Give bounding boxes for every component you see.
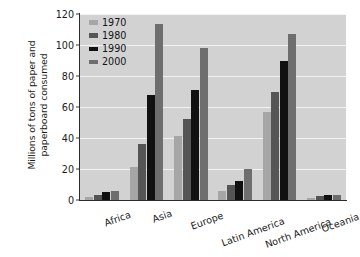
bar-2000-north-america xyxy=(288,34,296,200)
x-axis-labels: AfricaAsiaEuropeLatin AmericaNorth Ameri… xyxy=(80,201,346,257)
bar-1980-asia xyxy=(138,144,146,200)
y-axis-tick-label: 20 xyxy=(62,164,74,175)
legend-label-1990: 1990 xyxy=(102,44,126,54)
legend: 1970198019902000 xyxy=(89,17,126,68)
x-axis-label-africa: Africa xyxy=(103,209,132,229)
x-axis-label-oceania: Oceania xyxy=(320,211,360,235)
legend-swatch-1990 xyxy=(89,47,98,52)
bar-1980-latin-america xyxy=(227,185,235,201)
bar-1970-africa xyxy=(85,197,93,200)
bar-1980-africa xyxy=(94,195,102,200)
x-axis-label-asia: Asia xyxy=(150,207,173,224)
bar-1990-europe xyxy=(191,90,199,200)
bar-1990-latin-america xyxy=(235,181,243,200)
y-axis: 020406080100120 xyxy=(50,14,80,200)
legend-item-1990: 1990 xyxy=(89,43,126,54)
bar-2000-oceania xyxy=(333,195,341,200)
y-axis-tick-label: 80 xyxy=(62,71,74,82)
y-axis-tick-label: 100 xyxy=(56,40,74,51)
y-axis-tick-label: 60 xyxy=(62,102,74,113)
bar-2000-latin-america xyxy=(244,169,252,200)
bar-1990-asia xyxy=(147,95,155,200)
bar-group xyxy=(263,14,297,200)
bar-1970-europe xyxy=(174,136,182,200)
legend-swatch-1970 xyxy=(89,20,98,25)
legend-label-1970: 1970 xyxy=(102,18,126,28)
bar-group xyxy=(130,14,164,200)
bar-1990-oceania xyxy=(324,195,332,200)
y-axis-tick-label: 120 xyxy=(56,9,74,20)
bar-1990-north-america xyxy=(280,61,288,201)
bar-1980-europe xyxy=(183,119,191,200)
bar-group xyxy=(218,14,252,200)
legend-item-2000: 2000 xyxy=(89,57,126,68)
bar-group xyxy=(307,14,341,200)
legend-swatch-1980 xyxy=(89,33,98,38)
x-axis-label-europe: Europe xyxy=(189,210,224,232)
legend-item-1970: 1970 xyxy=(89,17,126,28)
legend-label-2000: 2000 xyxy=(102,57,126,67)
bar-1970-asia xyxy=(130,167,138,200)
bar-1970-latin-america xyxy=(218,191,226,200)
bar-2000-europe xyxy=(200,48,208,200)
y-axis-title-line2: paperboard consumed xyxy=(38,53,50,156)
bar-1970-oceania xyxy=(307,198,315,200)
y-axis-tick-label: 0 xyxy=(68,195,74,206)
y-axis-title-line1: Millions of tons of paper and xyxy=(26,40,38,169)
bar-1990-africa xyxy=(102,192,110,200)
y-axis-tick-label: 40 xyxy=(62,133,74,144)
bar-1980-oceania xyxy=(316,196,324,200)
bar-1970-north-america xyxy=(263,112,271,200)
bar-2000-asia xyxy=(155,24,163,200)
bar-group xyxy=(174,14,208,200)
bar-1980-north-america xyxy=(271,92,279,201)
legend-label-1980: 1980 xyxy=(102,31,126,41)
legend-item-1980: 1980 xyxy=(89,30,126,41)
legend-swatch-2000 xyxy=(89,60,98,65)
bar-2000-africa xyxy=(111,191,119,200)
